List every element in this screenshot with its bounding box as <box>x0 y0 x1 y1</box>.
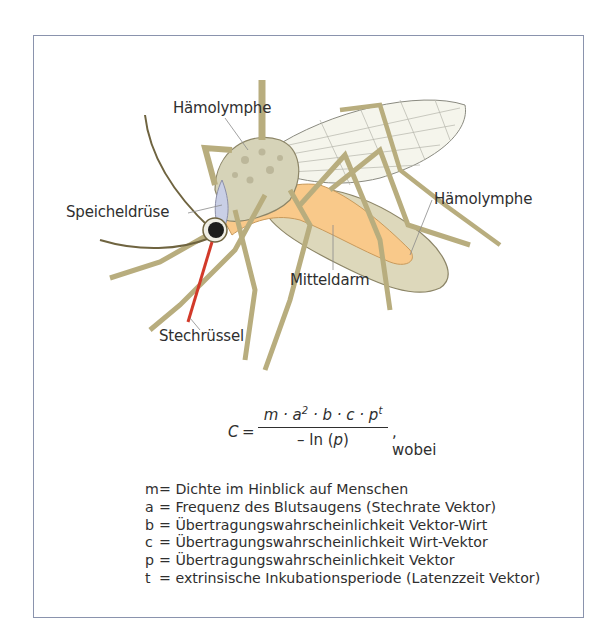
proboscis <box>188 242 212 322</box>
compound-eye <box>208 222 224 238</box>
label-speicheldruese: Speicheldrüse <box>66 203 169 221</box>
formula-numerator: m · a2 · b · c · pt <box>258 405 388 427</box>
formula-tail: , wobei <box>392 423 436 459</box>
legend-row: b= Übertragungswahrscheinlichkeit Vektor… <box>145 517 540 535</box>
label-stechruessel: Stechrüssel <box>159 327 244 345</box>
formula-denominator: – ln (p) <box>258 428 388 449</box>
formula-lhs: C <box>228 423 238 441</box>
label-haemolymphe-abdomen: Hämolymphe <box>434 190 532 208</box>
label-mitteldarm: Mitteldarm <box>290 271 370 289</box>
formula-fraction: m · a2 · b · c · pt – ln (p) <box>258 405 388 449</box>
label-haemolymphe-thorax: Hämolymphe <box>173 99 271 117</box>
legend-row: t= extrinsische Inkubationsperiode (Late… <box>145 570 540 588</box>
legend-row: m= Dichte im Hinblick auf Menschen <box>145 481 540 499</box>
formula-equals: = <box>242 423 255 441</box>
legend-row: p= Übertragungswahrscheinlichkeit Vektor <box>145 552 540 570</box>
legend-row: c= Übertragungswahrscheinlichkeit Wirt-V… <box>145 534 540 552</box>
antenna <box>100 238 210 248</box>
legend-row: a= Frequenz des Blutsaugens (Stechrate V… <box>145 499 540 517</box>
variable-legend: m= Dichte im Hinblick auf Menschen a= Fr… <box>145 481 540 588</box>
